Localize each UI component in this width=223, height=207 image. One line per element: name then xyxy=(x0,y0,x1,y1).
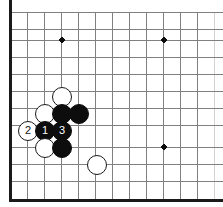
star-point-bottom-right xyxy=(161,144,166,149)
stone-move-number: 2 xyxy=(25,125,31,136)
white-stone-d xyxy=(87,155,107,175)
go-board-diagram: 213 xyxy=(0,0,223,207)
stone-move-number: 1 xyxy=(42,125,48,136)
star-point-top-right xyxy=(161,37,166,42)
board-grid xyxy=(0,0,223,207)
stone-move-number: 3 xyxy=(59,125,65,136)
black-stone-c xyxy=(52,138,72,158)
star-point-top-left xyxy=(59,37,64,42)
black-stone-b xyxy=(69,104,89,124)
